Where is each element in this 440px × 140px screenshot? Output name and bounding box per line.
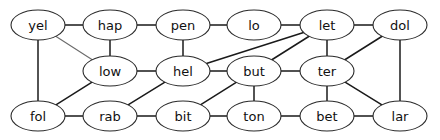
node-shape-pen xyxy=(156,10,210,40)
graph-node-lo[interactable]: lo xyxy=(227,10,281,40)
node-shape-dol xyxy=(373,10,427,40)
graph-edge-hel-rab xyxy=(128,82,165,105)
graph-node-ton[interactable]: ton xyxy=(227,101,281,131)
graph-canvas: yelhappenloletdollowhelbutterfolrabbitto… xyxy=(0,0,440,140)
graph-node-ter[interactable]: ter xyxy=(300,56,354,86)
graph-edge-but-let xyxy=(272,36,309,59)
node-shape-yel xyxy=(11,10,65,40)
graph-node-lar[interactable]: lar xyxy=(373,101,427,131)
node-shape-rab xyxy=(83,101,137,131)
graph-node-bet[interactable]: bet xyxy=(300,101,354,131)
node-shape-ton xyxy=(227,101,281,131)
graph-edge-but-bit xyxy=(201,82,236,104)
graph-node-pen[interactable]: pen xyxy=(156,10,210,40)
node-shape-hel xyxy=(156,56,210,86)
node-shape-hap xyxy=(83,10,137,40)
node-shape-lo xyxy=(227,10,281,40)
graph-node-yel[interactable]: yel xyxy=(11,10,65,40)
graph-node-fol[interactable]: fol xyxy=(11,101,65,131)
graph-node-but[interactable]: but xyxy=(227,56,281,86)
graph-node-low[interactable]: low xyxy=(83,56,137,86)
graph-node-hel[interactable]: hel xyxy=(156,56,210,86)
graph-node-rab[interactable]: rab xyxy=(83,101,137,131)
graph-node-dol[interactable]: dol xyxy=(373,10,427,40)
graph-node-bit[interactable]: bit xyxy=(156,101,210,131)
graph-edge-low-fol xyxy=(56,82,92,105)
node-shape-ter xyxy=(300,56,354,86)
node-shape-fol xyxy=(11,101,65,131)
node-shape-bit xyxy=(156,101,210,131)
node-shape-lar xyxy=(373,101,427,131)
graph-edge-ter-lar xyxy=(345,82,382,105)
graph-edge-yel-low xyxy=(56,36,93,59)
node-shape-but xyxy=(227,56,281,86)
graph-diagram: yelhappenloletdollowhelbutterfolrabbitto… xyxy=(0,0,440,140)
node-shape-bet xyxy=(300,101,354,131)
node-shape-low xyxy=(83,56,137,86)
node-shape-let xyxy=(300,10,354,40)
graph-node-hap[interactable]: hap xyxy=(83,10,137,40)
graph-node-let[interactable]: let xyxy=(300,10,354,40)
graph-edge-dol-ter xyxy=(345,36,382,59)
